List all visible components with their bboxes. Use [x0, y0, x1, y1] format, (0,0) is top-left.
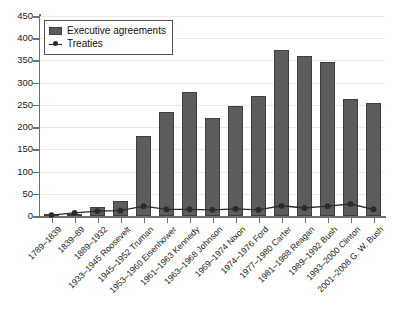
chart-figure: 050100150200250300350400450 1789–1839183…	[0, 0, 400, 323]
legend-entry-executive-agreements: Executive agreements	[49, 25, 166, 37]
legend-entry-treaties: Treaties	[49, 38, 166, 50]
line-marker-icon	[49, 40, 62, 48]
legend-label: Executive agreements	[67, 26, 166, 36]
chart-legend: Executive agreements Treaties	[44, 20, 173, 55]
legend-label: Treaties	[67, 39, 103, 49]
bar-swatch-icon	[49, 27, 62, 35]
